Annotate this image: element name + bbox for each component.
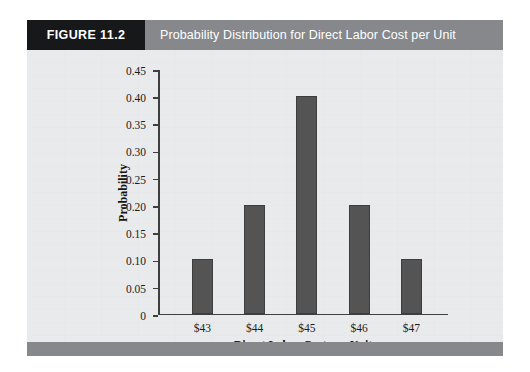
- y-axis-tick-label: 0.20: [126, 201, 146, 213]
- y-axis-tick-label: 0.15: [126, 228, 146, 240]
- y-axis-tick: 0.10: [153, 261, 158, 263]
- y-axis-tick: 0.25: [153, 179, 158, 181]
- y-axis-tick: 0.45: [153, 70, 158, 72]
- y-axis-tick: 0.05: [153, 288, 158, 290]
- figure-header: FIGURE 11.2 Probability Distribution for…: [27, 20, 503, 50]
- x-axis-tick-label: $46: [351, 322, 368, 334]
- bar: [296, 96, 317, 314]
- bar: [349, 205, 370, 314]
- figure-card: FIGURE 11.2 Probability Distribution for…: [27, 20, 503, 356]
- bar-chart: Probability 0.450.400.350.300.250.200.15…: [158, 70, 448, 315]
- y-axis-line: [158, 70, 160, 315]
- y-axis-tick-label: 0.30: [126, 146, 146, 158]
- y-axis-tick: 0: [153, 315, 158, 317]
- y-axis-tick-label: 0.45: [126, 65, 146, 77]
- figure-title: Probability Distribution for Direct Labo…: [145, 20, 456, 50]
- y-axis-tick-label: 0.05: [126, 283, 146, 295]
- y-axis-tick: 0.35: [153, 124, 158, 126]
- figure-number-block: FIGURE 11.2: [27, 20, 145, 50]
- x-axis-tick-label: $43: [194, 322, 211, 334]
- bar: [244, 205, 265, 314]
- y-axis-tick: 0.15: [153, 233, 158, 235]
- bar: [401, 259, 422, 313]
- x-axis-tick-label: $47: [403, 322, 420, 334]
- x-axis-tick-label: $45: [298, 322, 315, 334]
- y-axis-tick-label: 0.25: [126, 174, 146, 186]
- x-axis-tick-label: $44: [246, 322, 263, 334]
- y-axis-tick-label: 0.35: [126, 119, 146, 131]
- y-axis-tick-label: 0: [140, 310, 146, 322]
- y-axis-tick-label: 0.40: [126, 92, 146, 104]
- y-axis-tick-label: 0.10: [126, 255, 146, 267]
- figure-footer-band: [27, 342, 503, 356]
- y-axis-tick: 0.30: [153, 152, 158, 154]
- x-axis-line: [158, 314, 448, 316]
- figure-number-label: FIGURE 11.2: [47, 28, 126, 42]
- y-axis-tick: 0.40: [153, 97, 158, 99]
- bar: [192, 259, 213, 313]
- y-axis-tick: 0.20: [153, 206, 158, 208]
